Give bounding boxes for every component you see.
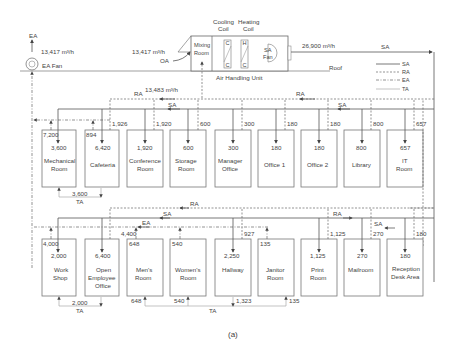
svg-text:RA: RA	[134, 90, 143, 97]
svg-text:SA: SA	[374, 220, 383, 227]
svg-text:Janitor: Janitor	[266, 266, 285, 273]
svg-text:Office: Office	[222, 165, 239, 172]
svg-text:Room: Room	[310, 274, 327, 281]
cooling-coil-label-1: Cooling	[213, 18, 235, 25]
svg-text:SA: SA	[338, 101, 347, 108]
svg-text:7,200: 7,200	[43, 131, 59, 138]
svg-text:1,125: 1,125	[310, 252, 326, 259]
heating-coil-label-2: Coil	[243, 25, 254, 32]
figure-caption: (a)	[228, 330, 238, 339]
svg-text:657: 657	[416, 120, 427, 127]
mixing-room-label-2: Room	[194, 50, 209, 56]
ea-label: EA	[29, 32, 38, 39]
svg-text:RA: RA	[333, 210, 342, 217]
svg-text:Hallway: Hallway	[222, 266, 245, 273]
room-womens: 540 Women's Room	[170, 228, 206, 296]
room-office-2: 180 Office 2	[301, 99, 337, 187]
ahu-label: Air Handling Unit	[216, 74, 263, 81]
svg-text:600: 600	[183, 144, 194, 151]
svg-text:657: 657	[400, 144, 411, 151]
svg-text:800: 800	[356, 144, 367, 151]
svg-text:Storage: Storage	[175, 157, 197, 164]
svg-text:300: 300	[228, 144, 239, 151]
svg-text:SA: SA	[163, 210, 172, 217]
room-print: 1,125 1,125 Print Room	[301, 208, 346, 296]
svg-text:C: C	[226, 62, 230, 68]
svg-text:Women's: Women's	[175, 266, 200, 273]
svg-text:180: 180	[330, 120, 341, 127]
svg-text:IT: IT	[402, 157, 408, 164]
room-cafeteria: 894 6,420 Cafeteria	[85, 99, 119, 187]
svg-text:648: 648	[131, 297, 142, 304]
svg-text:Office 2: Office 2	[307, 161, 329, 168]
svg-text:3,600: 3,600	[51, 144, 67, 151]
svg-text:800: 800	[373, 120, 384, 127]
svg-text:Desk Area: Desk Area	[391, 273, 420, 280]
svg-text:927: 927	[244, 230, 255, 237]
svg-text:TA: TA	[76, 198, 84, 205]
room-manager-office: 300 Manager Office	[215, 99, 251, 187]
oa-flow: 13,417 m³/h	[132, 48, 166, 55]
svg-text:SA: SA	[168, 101, 177, 108]
sa-fan-label-1: SA	[264, 47, 272, 53]
roof-label: Roof	[329, 64, 342, 71]
svg-text:Print: Print	[311, 266, 324, 273]
svg-text:H: H	[243, 40, 247, 46]
return-flow: 13,483 m³/h	[145, 86, 179, 93]
room-mechanical: 7,200 3,600 Mechanical Room	[42, 109, 76, 187]
svg-text:Office 1: Office 1	[264, 161, 286, 168]
svg-text:Room: Room	[135, 274, 152, 281]
room-work-shop: 4,000 2,000 Work Shop	[42, 218, 76, 296]
svg-text:TA: TA	[76, 307, 84, 314]
svg-text:1,920: 1,920	[156, 120, 172, 127]
svg-text:135: 135	[289, 297, 300, 304]
svg-text:C: C	[243, 62, 247, 68]
svg-text:Shop: Shop	[53, 274, 68, 281]
mixing-room-label-1: Mixing	[194, 42, 210, 48]
lower-floor-rooms: 4,000 2,000 Work Shop 4,400 6,400 Open E…	[42, 208, 427, 314]
svg-text:Room: Room	[137, 165, 154, 172]
svg-text:180: 180	[314, 144, 325, 151]
air-handling-unit: Mixing Room C C Cooling Coil H C Heating…	[132, 18, 291, 98]
svg-text:6,420: 6,420	[95, 144, 111, 151]
legend: SA RA EA TA	[376, 61, 410, 92]
room-reception: 180 180 Reception Desk Area	[387, 208, 427, 296]
svg-text:Work: Work	[54, 266, 69, 273]
svg-text:Men's: Men's	[136, 266, 152, 273]
room-conference: 1,920 Conference Room	[127, 99, 163, 187]
svg-text:Room: Room	[178, 165, 195, 172]
svg-text:Room: Room	[267, 274, 284, 281]
svg-text:1,323: 1,323	[236, 297, 252, 304]
svg-text:300: 300	[244, 120, 255, 127]
cooling-coil-label-2: Coil	[218, 25, 229, 32]
svg-text:4,400: 4,400	[121, 230, 137, 237]
svg-text:180: 180	[416, 230, 427, 237]
svg-text:Manager: Manager	[218, 157, 242, 164]
svg-text:Employee: Employee	[88, 274, 116, 281]
sa-fan-label-2: Fan	[263, 54, 273, 60]
svg-text:180: 180	[271, 144, 282, 151]
oa-label: OA	[160, 57, 170, 64]
svg-text:2,250: 2,250	[224, 252, 240, 259]
svg-text:EA: EA	[142, 219, 151, 226]
room-it: 657 IT Room	[387, 99, 423, 187]
svg-text:135: 135	[260, 240, 271, 247]
svg-text:1,125: 1,125	[330, 230, 346, 237]
svg-text:648: 648	[129, 240, 140, 247]
ea-fan-label: EA Fan	[42, 62, 63, 69]
supply-flow: 26,900 m³/h	[302, 42, 336, 49]
svg-text:4,000: 4,000	[43, 240, 59, 247]
svg-text:Cafeteria: Cafeteria	[90, 161, 116, 168]
svg-text:2,000: 2,000	[51, 252, 67, 259]
hvac-airflow-diagram: Roof EA 13,417 m³/h EA Fan Mixing Room C…	[0, 0, 467, 355]
svg-text:Mechanical: Mechanical	[44, 157, 75, 164]
svg-text:EA: EA	[402, 77, 410, 83]
room-library: 800 Library	[344, 99, 380, 187]
heating-coil-label-1: Heating	[238, 18, 260, 25]
svg-text:1,926: 1,926	[112, 120, 128, 127]
svg-text:6,400: 6,400	[95, 252, 111, 259]
svg-text:270: 270	[373, 230, 384, 237]
svg-text:SA: SA	[381, 43, 390, 50]
svg-text:Conference: Conference	[129, 157, 162, 164]
svg-text:Office: Office	[95, 282, 112, 289]
